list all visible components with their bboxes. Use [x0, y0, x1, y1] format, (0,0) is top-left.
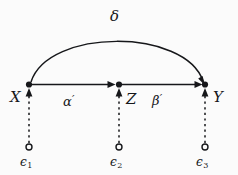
node-marker-Y [202, 81, 208, 87]
edge-e3-arrowhead [202, 88, 209, 97]
node-marker-X [26, 81, 32, 87]
error-label-e3-symbol: ϵ [196, 155, 203, 169]
edge-alpha-arrowhead [108, 81, 116, 88]
node-label-Z: Z [126, 92, 136, 107]
edge-delta-arc [31, 41, 203, 82]
edge-e2-arrowhead [116, 88, 123, 97]
error-label-e2-symbol: ϵ [110, 155, 117, 169]
edge-e1-arrowhead [26, 88, 33, 97]
error-label-e1-subscript: 1 [27, 161, 33, 170]
error-label-e2: ϵ2 [110, 156, 122, 170]
edge-label-alpha-prime: ′ [72, 93, 75, 106]
error-marker-e3 [202, 144, 208, 150]
error-label-e1-symbol: ϵ [20, 155, 27, 169]
path-diagram: X Z Y α′ β′ δ ϵ1 ϵ2 ϵ3 [0, 0, 238, 175]
edge-beta-arrowhead [195, 81, 203, 88]
error-label-e3: ϵ3 [196, 156, 208, 170]
edge-label-beta-prime: ′ [160, 92, 163, 105]
edge-label-alpha: α′ [63, 94, 74, 108]
diagram-canvas [0, 0, 238, 175]
edge-label-alpha-symbol: α [63, 94, 72, 109]
error-label-e3-subscript: 3 [203, 161, 209, 170]
error-label-e1: ϵ1 [20, 156, 32, 170]
node-label-X: X [10, 90, 21, 105]
node-marker-Z [116, 81, 122, 87]
edge-label-beta-symbol: β [152, 93, 160, 108]
error-marker-e2 [116, 144, 122, 150]
edge-label-delta: δ [110, 9, 119, 24]
edge-label-beta: β′ [152, 93, 162, 107]
error-label-e2-subscript: 2 [117, 161, 123, 170]
node-label-Y: Y [213, 90, 223, 105]
error-marker-e1 [26, 144, 32, 150]
